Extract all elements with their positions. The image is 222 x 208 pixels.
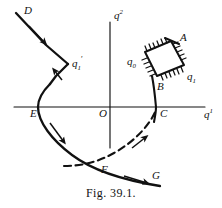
solid-trajectory-curve bbox=[16, 13, 160, 186]
origin-label-o: O bbox=[99, 108, 107, 119]
axis-label-q1: q1 bbox=[204, 108, 213, 120]
q1-sub: 1 bbox=[193, 77, 196, 84]
axis-label-q2: q2 bbox=[114, 9, 123, 21]
point-label-d: D bbox=[24, 5, 32, 16]
point-label-q0: q0 bbox=[127, 56, 136, 70]
q1-prime-sub: 1 bbox=[78, 64, 81, 71]
point-label-q1: q1 bbox=[187, 71, 196, 85]
q0-sub: 0 bbox=[133, 62, 136, 69]
point-label-b: B bbox=[157, 81, 164, 92]
point-label-e: E bbox=[30, 108, 37, 119]
point-label-c: C bbox=[160, 108, 167, 119]
solid-curve-arrow-upper bbox=[29, 26, 45, 43]
axis-q2-sup: 2 bbox=[120, 8, 123, 15]
hatched-region-quadrilateral bbox=[142, 38, 186, 80]
point-label-g: G bbox=[152, 170, 160, 181]
point-label-a: A bbox=[180, 32, 187, 43]
point-label-q1-prime: q1′ bbox=[72, 56, 83, 72]
q1-prime-mark: ′ bbox=[81, 55, 83, 64]
axis-q1-sup: 1 bbox=[210, 107, 213, 114]
solid-curve-arrow-lower-left bbox=[50, 123, 64, 142]
figure-container: D q1′ E O C B A q0 q1 F G q2 q1 Fig. 39.… bbox=[0, 0, 222, 208]
point-label-f: F bbox=[101, 164, 108, 175]
figure-caption: Fig. 39.1. bbox=[0, 186, 222, 201]
figure-drawing bbox=[0, 0, 222, 208]
